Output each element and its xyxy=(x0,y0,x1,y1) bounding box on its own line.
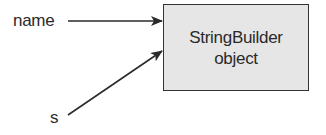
object-kind-label: object xyxy=(214,48,258,69)
variable-s-label: s xyxy=(50,109,58,126)
arrow-s-to-object xyxy=(68,51,162,115)
variable-name-label: name xyxy=(13,12,54,29)
object-type-label: StringBuilder xyxy=(189,27,282,48)
stringbuilder-object-box: StringBuilder object xyxy=(163,4,309,91)
